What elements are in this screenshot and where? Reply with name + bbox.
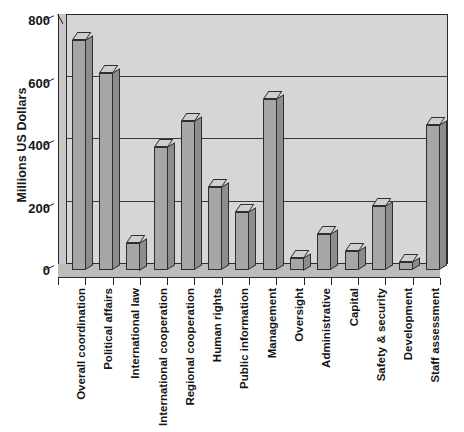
x-tick-mark <box>194 278 195 285</box>
x-tick-label: Administrative <box>318 288 334 368</box>
x-tick-label: Human rights <box>209 288 225 362</box>
x-tick-label: Management <box>264 288 280 358</box>
x-tick-label: Safety & security <box>373 288 389 381</box>
x-tick-label: Regional cooperation <box>182 288 198 406</box>
x-tick-label: International law <box>127 288 143 379</box>
x-tick-label: Oversight <box>291 288 307 342</box>
x-tick-label: International cooperation <box>155 288 171 426</box>
plot-left-wall <box>58 14 66 278</box>
x-tick-label: Overall coordination <box>73 288 89 400</box>
x-tick-mark <box>385 278 386 285</box>
x-tick-mark <box>58 278 59 285</box>
gridline <box>67 76 447 77</box>
x-tick-mark <box>304 278 305 285</box>
gridline <box>67 201 447 202</box>
x-tick-label: Staff assessment <box>427 288 443 383</box>
x-tick-mark <box>276 278 277 285</box>
x-tick-label: Capital <box>346 288 362 326</box>
x-tick-mark <box>113 278 114 285</box>
x-tick-mark <box>440 278 441 285</box>
x-tick-mark <box>222 278 223 285</box>
x-tick-mark <box>249 278 250 285</box>
x-tick-label: Political affairs <box>100 288 116 370</box>
x-tick-mark <box>331 278 332 285</box>
x-tick-mark <box>85 278 86 285</box>
plot-floor <box>58 264 440 278</box>
y-axis-ticks: 0200400600800 <box>8 0 50 432</box>
plot-back-wall <box>66 14 448 264</box>
x-tick-mark <box>167 278 168 285</box>
bar-chart: Millions US Dollars 0200400600800 Overal… <box>0 0 464 432</box>
x-tick-label: Development <box>400 288 416 360</box>
x-tick-mark <box>140 278 141 285</box>
x-tick-mark <box>413 278 414 285</box>
gridline <box>67 138 447 139</box>
x-tick-mark <box>358 278 359 285</box>
x-tick-label: Public information <box>236 288 252 389</box>
